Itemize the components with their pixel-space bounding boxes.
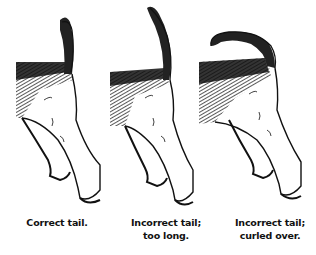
dog-hindquarters-correct-tail-drawing bbox=[0, 0, 110, 210]
caption-correct-tail: Correct tail. bbox=[22, 216, 92, 229]
caption-curled-over-tail: Incorrect tail; curled over. bbox=[230, 216, 310, 242]
caption-line-1: Incorrect tail; bbox=[230, 216, 310, 229]
figure-too-long-tail bbox=[105, 0, 205, 210]
caption-too-long-tail: Incorrect tail; too long. bbox=[126, 216, 206, 242]
caption-line-2: curled over. bbox=[230, 229, 310, 242]
caption-line-2: too long. bbox=[126, 229, 206, 242]
figure-curled-over-tail bbox=[195, 0, 316, 210]
dog-hindquarters-curled-tail-drawing bbox=[195, 0, 316, 210]
dog-hindquarters-long-tail-drawing bbox=[105, 0, 205, 210]
figure-correct-tail bbox=[0, 0, 110, 210]
caption-line-1: Incorrect tail; bbox=[126, 216, 206, 229]
caption-line-1: Correct tail. bbox=[22, 216, 92, 229]
